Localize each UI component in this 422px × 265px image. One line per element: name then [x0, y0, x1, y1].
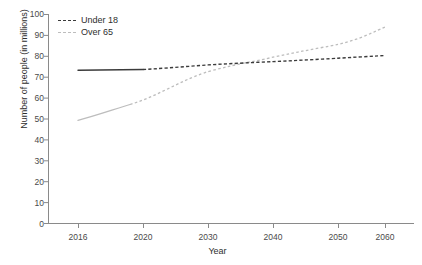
series-under-18	[78, 56, 385, 71]
axis-lines	[48, 14, 414, 224]
line-chart: Number of people (in millions) Year 100 …	[0, 0, 422, 265]
series-over-65	[78, 27, 385, 120]
plot-area	[0, 0, 422, 265]
y-axis-ticks	[44, 15, 48, 224]
x-axis-ticks	[79, 224, 386, 228]
